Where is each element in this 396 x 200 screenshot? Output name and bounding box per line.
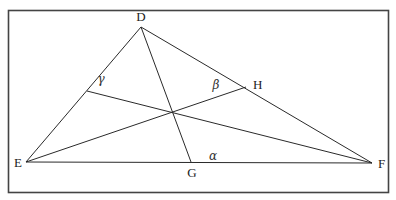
angle-label-gamma: γ — [97, 72, 105, 86]
label-h: H — [253, 77, 262, 92]
angle-label-alpha: α — [209, 149, 217, 163]
diagram-canvas: D E F G H γ β α — [0, 0, 396, 200]
label-d: D — [136, 9, 145, 24]
label-e: E — [14, 155, 22, 170]
side-df — [141, 27, 372, 163]
label-f: F — [378, 156, 385, 171]
cevian-dg — [141, 27, 191, 162]
label-g: G — [187, 165, 196, 180]
angle-label-beta: β — [212, 78, 220, 92]
frame-border — [9, 11, 389, 193]
side-de — [26, 27, 141, 162]
side-ef — [26, 162, 372, 163]
